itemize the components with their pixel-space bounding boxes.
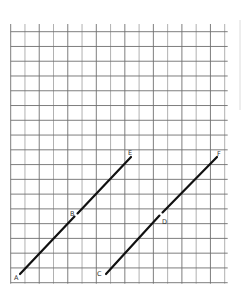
segment-ae-lower: [20, 217, 74, 274]
line-segments: [20, 157, 217, 274]
point-label-c: C: [97, 270, 102, 278]
point-label-f: F: [217, 150, 221, 158]
point-label-a: A: [14, 274, 19, 282]
graph-paper-grid: [11, 24, 228, 284]
point-label-d: D: [162, 218, 167, 226]
segment-ae-upper: [78, 157, 131, 213]
segment-cf-upper: [163, 157, 217, 212]
segment-cf-lower: [106, 216, 159, 274]
point-label-e: E: [128, 149, 132, 157]
grid-diagram: ABCDEF: [0, 0, 242, 301]
point-label-b: B: [70, 210, 74, 218]
